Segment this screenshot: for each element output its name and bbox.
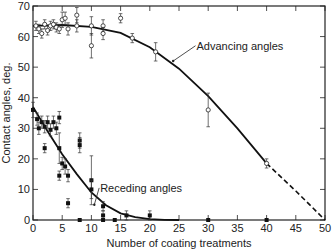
arrow-head-icon — [93, 204, 95, 206]
advancing-point — [40, 31, 44, 35]
receding-point — [66, 201, 70, 205]
x-tick-label: 10 — [85, 222, 97, 234]
x-tick-label: 35 — [231, 222, 243, 234]
x-tick-label: 15 — [114, 222, 126, 234]
advancing-point — [89, 44, 93, 48]
annotation-advancing: Advancing angles — [197, 40, 284, 52]
annotation-arrow — [173, 46, 195, 61]
receding-point — [78, 218, 82, 222]
y-tick-label: 60 — [18, 31, 30, 43]
receding-point — [78, 143, 82, 147]
x-tick-label: 20 — [144, 222, 156, 234]
receding-point — [57, 116, 61, 120]
x-tick-label: 5 — [59, 222, 65, 234]
advancing-point — [75, 24, 79, 28]
x-tick-label: 30 — [202, 222, 214, 234]
receding-point — [265, 218, 269, 222]
x-tick-label: 0 — [30, 222, 36, 234]
x-tick-label: 45 — [290, 222, 302, 234]
y-tick-label: 70 — [18, 0, 30, 12]
x-tick-label: 50 — [319, 222, 331, 234]
receding-point — [57, 146, 61, 150]
x-tick-label: 25 — [173, 222, 185, 234]
x-axis-title: Number of coating treatments — [107, 237, 252, 249]
advancing-point — [75, 13, 79, 17]
y-tick-label: 40 — [18, 92, 30, 104]
extrapolation-line — [267, 163, 325, 220]
receding-point — [31, 108, 35, 112]
x-tick-label: 40 — [260, 222, 272, 234]
receding-point — [101, 213, 105, 217]
advancing-point — [89, 24, 93, 28]
advancing-point — [154, 50, 158, 54]
y-tick-label: 30 — [18, 122, 30, 134]
annotations: Advancing anglesReceding angles — [93, 40, 284, 206]
receding-point — [124, 213, 128, 217]
advancing-point — [101, 31, 105, 35]
y-tick-label: 10 — [18, 183, 30, 195]
advancing-point — [66, 27, 70, 31]
advancing-point — [206, 108, 210, 112]
receding-point — [113, 218, 117, 222]
advancing-point — [130, 36, 134, 40]
receding-point — [206, 218, 210, 222]
receding-point — [35, 117, 39, 121]
receding-point — [66, 174, 70, 178]
advancing-point — [119, 16, 123, 20]
receding-point — [101, 204, 105, 208]
receding-point — [54, 126, 58, 130]
y-tick-label: 0 — [24, 214, 30, 226]
receding-point — [148, 213, 152, 217]
axes: 05101520253035404550010203040506070 — [18, 0, 331, 234]
y-tick-label: 20 — [18, 153, 30, 165]
advancing-point — [265, 161, 269, 165]
receding-point — [57, 174, 61, 178]
y-axis-title: Contact angles, deg. — [0, 63, 12, 164]
receding-point — [63, 165, 67, 169]
receding-point — [89, 187, 93, 191]
receding-point — [101, 218, 105, 222]
receding-point — [43, 146, 47, 150]
y-tick-label: 50 — [18, 61, 30, 73]
advancing-point — [63, 16, 67, 20]
annotation-receding: Receding angles — [100, 182, 182, 194]
contact-angle-chart: 05101520253035404550010203040506070 Adva… — [0, 0, 336, 252]
arrow-head-icon — [172, 60, 174, 62]
